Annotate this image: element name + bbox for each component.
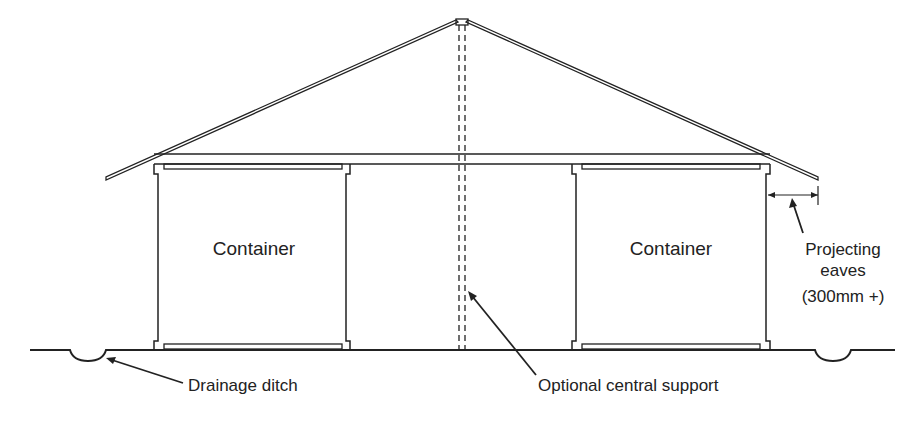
eaves-label-line3: (300mm +) [802,287,885,306]
drainage-arrow [106,357,183,383]
support-arrow [468,291,536,375]
container-shelter-diagram: Container Container Projecting eaves (30… [0,0,910,423]
eaves-label-line1: Projecting [805,240,881,259]
roof-right-slope [466,20,818,180]
eaves-dimension [768,186,818,233]
container-right: Container [572,164,770,349]
roof-beam [154,154,770,164]
eaves-label-line2: eaves [820,261,865,280]
ground-line [30,350,895,361]
container-right-label: Container [630,238,713,259]
roof-left-slope [106,20,458,180]
drainage-label: Drainage ditch [188,376,298,395]
central-support [459,25,465,349]
support-label: Optional central support [538,376,719,395]
container-left-label: Container [213,238,296,259]
container-left: Container [154,164,350,349]
